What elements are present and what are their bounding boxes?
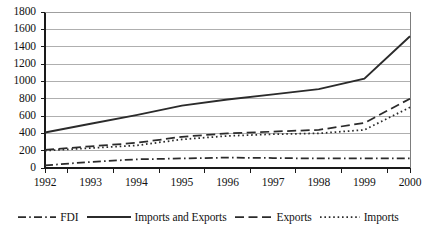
chart-legend: FDIImports and ExportsExportsImports [0,204,423,230]
legend-entry-imports-and-exports[interactable]: Imports and Exports [86,211,227,223]
y-tick-label: 1800 [2,6,36,18]
y-tick-label: 400 [2,127,36,139]
x-tick-label: 1994 [116,177,156,189]
x-tick-label: 1995 [162,177,202,189]
legend-swatch-dashed-icon [234,212,274,222]
y-tick-label: 800 [2,93,36,105]
legend-entry-exports[interactable]: Exports [234,211,312,223]
x-tick-label: 2000 [390,177,423,189]
y-tick-label: 1400 [2,41,36,53]
legend-label: Imports [364,211,399,223]
legend-label: Exports [277,211,312,223]
y-tick-label: 1600 [2,23,36,35]
x-axis-ticks [45,168,410,173]
x-tick-label: 1993 [71,177,111,189]
chart-plot-area [0,0,423,232]
legend-label: Imports and Exports [135,211,227,223]
y-tick-label: 600 [2,110,36,122]
series-line-fdi [45,158,410,166]
y-tick-label: 1200 [2,58,36,70]
line-chart: 020040060080010001200140016001800 199219… [0,0,423,232]
legend-swatch-dash-dot-icon [17,212,57,222]
legend-entry-imports[interactable]: Imports [319,211,399,223]
gridlines [45,12,410,168]
y-tick-label: 1000 [2,75,36,87]
data-series-group [45,36,410,165]
x-tick-label: 1997 [253,177,293,189]
series-line-exports [45,99,410,150]
legend-label: FDI [60,211,78,223]
legend-swatch-dotted-icon [319,212,361,222]
x-tick-label: 1998 [299,177,339,189]
series-line-imports [45,107,410,150]
x-tick-label: 1999 [344,177,384,189]
y-tick-label: 0 [2,162,36,174]
x-tick-label: 1996 [208,177,248,189]
y-tick-label: 200 [2,145,36,157]
plot-frame [45,12,410,168]
x-tick-label: 1992 [25,177,65,189]
y-axis-ticks [41,12,45,168]
series-line-imports-and-exports [45,36,410,132]
legend-entry-fdi[interactable]: FDI [17,211,78,223]
legend-swatch-solid-icon [86,212,132,222]
